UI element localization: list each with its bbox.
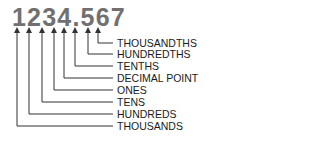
label-thousands: THOUSANDS <box>117 120 183 132</box>
label-ones: ONES <box>117 84 147 96</box>
label-decimal-point: DECIMAL POINT <box>117 72 198 84</box>
label-tens: TENS <box>117 96 145 108</box>
label-tenths: TENTHS <box>117 60 159 72</box>
label-hundredths: HUNDREDTHS <box>117 48 191 60</box>
label-hundreds: HUNDREDS <box>117 108 177 120</box>
